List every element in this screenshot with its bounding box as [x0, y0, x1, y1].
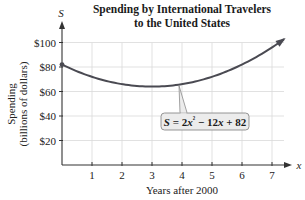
- axes: [59, 21, 292, 168]
- chart-title-line-2: to the United States: [134, 17, 231, 29]
- y-axis-letter: S: [58, 7, 64, 19]
- y-axis-label-line-1: Spending: [5, 83, 17, 125]
- y-axis-label-line-2: (billions of dollars): [17, 61, 30, 146]
- y-tick-label: $100: [34, 37, 57, 49]
- x-tick-label: 2: [119, 169, 125, 181]
- y-tick-label: $20: [40, 135, 57, 147]
- x-axis-label: Years after 2000: [146, 184, 219, 196]
- y-axis-label: Spending (billions of dollars): [5, 61, 30, 146]
- x-tick-label: 6: [239, 169, 245, 181]
- y-axis-arrow-icon: [59, 21, 65, 29]
- start-point-marker: [60, 62, 65, 67]
- x-tick-label: 7: [269, 169, 275, 181]
- x-tick-label: 5: [209, 169, 215, 181]
- chart-title: Spending by International Travelers to t…: [93, 3, 272, 29]
- y-tick-label: $80: [40, 61, 57, 73]
- data-curve: [60, 38, 286, 87]
- equation-text: S = 2x² − 12x + 82: [164, 115, 247, 128]
- x-tick-label: 1: [89, 169, 95, 181]
- x-axis-arrow-icon: [284, 162, 292, 168]
- callout-pointer: [179, 86, 187, 113]
- ticks: 1234567$20$40$60$80$100: [34, 37, 275, 182]
- x-axis-letter: x: [296, 159, 302, 171]
- chart: Spending by International Travelers to t…: [0, 0, 305, 200]
- chart-title-line-1: Spending by International Travelers: [93, 3, 272, 16]
- spending-curve: [62, 39, 284, 86]
- x-tick-label: 4: [179, 169, 185, 181]
- curve-end-arrow-icon: [275, 38, 285, 47]
- equation-annotation: S = 2x² − 12x + 82: [161, 86, 249, 130]
- x-tick-label: 3: [149, 169, 155, 181]
- y-tick-label: $60: [40, 86, 57, 98]
- y-tick-label: $40: [40, 110, 57, 122]
